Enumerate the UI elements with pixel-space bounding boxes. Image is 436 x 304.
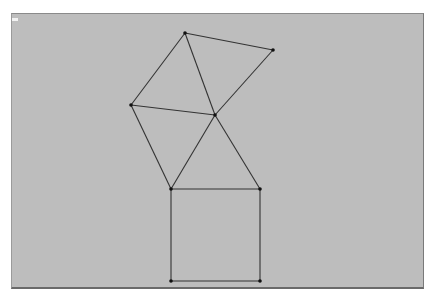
vertex-C[interactable] bbox=[129, 103, 133, 107]
segment-ED bbox=[171, 115, 215, 189]
vertex-H[interactable] bbox=[258, 279, 262, 283]
segment-AD bbox=[185, 33, 215, 115]
vertex-G[interactable] bbox=[169, 279, 173, 283]
segment-AB bbox=[185, 33, 273, 50]
vertex-D[interactable] bbox=[213, 113, 217, 117]
segment-CE bbox=[131, 105, 171, 189]
vertex-B[interactable] bbox=[271, 48, 275, 52]
segment-CD bbox=[131, 105, 215, 115]
vertex-F[interactable] bbox=[258, 187, 262, 191]
vertex-E[interactable] bbox=[169, 187, 173, 191]
segment-DF bbox=[215, 115, 260, 189]
vertex-A[interactable] bbox=[183, 31, 187, 35]
segment-BD bbox=[215, 50, 273, 115]
segment-AC bbox=[131, 33, 185, 105]
geometry-figure bbox=[0, 0, 436, 304]
